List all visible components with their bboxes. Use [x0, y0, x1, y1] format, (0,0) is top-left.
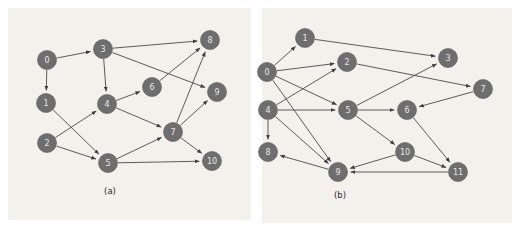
graph-edge-b-10-to-9: [350, 155, 395, 169]
graph-edge-a-0-to-3: [57, 51, 91, 58]
node-circle-b-9[interactable]: [329, 163, 348, 182]
graph-node-a-3[interactable]: 3: [94, 40, 113, 59]
node-circle-a-10[interactable]: [203, 152, 222, 171]
graph-edge-b-4-to-2: [277, 69, 337, 105]
graph-node-a-4[interactable]: 4: [98, 95, 117, 114]
graph-edge-b-6-to-11: [413, 118, 450, 162]
graph-edge-b-1-to-3: [315, 39, 436, 56]
node-circle-b-8[interactable]: [259, 143, 278, 162]
node-circle-b-5[interactable]: [339, 101, 358, 120]
graph-edge-a-7-to-10: [181, 138, 202, 153]
graph-node-a-2[interactable]: 2: [38, 134, 57, 153]
graph-edge-a-4-to-7: [116, 108, 161, 127]
node-circle-b-2[interactable]: [338, 53, 357, 72]
figure-canvas: 01234567891001234567891011 (a) (b): [0, 0, 524, 237]
node-circle-b-6[interactable]: [398, 101, 417, 120]
node-circle-b-11[interactable]: [449, 163, 468, 182]
graph-node-b-4[interactable]: 4: [259, 101, 278, 120]
graph-node-b-5[interactable]: 5: [339, 101, 358, 120]
graph-node-b-1[interactable]: 1: [296, 29, 315, 48]
panel-a-caption: (a): [98, 186, 122, 196]
node-circle-b-1[interactable]: [296, 29, 315, 48]
graph-edge-b-0-to-2: [277, 64, 334, 71]
graph-node-b-0[interactable]: 0: [258, 63, 277, 82]
graph-node-b-2[interactable]: 2: [338, 53, 357, 72]
node-circle-a-5[interactable]: [99, 154, 118, 173]
node-circle-a-8[interactable]: [201, 31, 220, 50]
graph-edge-b-0-to-1: [274, 46, 295, 65]
graph-edge-b-7-to-6: [419, 92, 473, 107]
node-circle-b-10[interactable]: [396, 143, 415, 162]
graph-node-a-1[interactable]: 1: [37, 94, 56, 113]
node-circle-b-3[interactable]: [439, 49, 458, 68]
graph-node-b-3[interactable]: 3: [439, 49, 458, 68]
node-circle-a-7[interactable]: [164, 123, 183, 142]
graph-node-b-8[interactable]: 8: [259, 143, 278, 162]
graph-node-a-8[interactable]: 8: [201, 31, 220, 50]
graph-edge-a-4-to-6: [116, 91, 140, 100]
node-circle-b-7[interactable]: [474, 80, 493, 99]
graph-edge-b-0-to-5: [276, 76, 336, 104]
panel-b-caption: (b): [328, 190, 352, 200]
graph-edge-b-5-to-3: [357, 64, 437, 106]
graph-edge-a-3-to-4: [104, 59, 106, 91]
graph-node-a-6[interactable]: 6: [143, 78, 162, 97]
graph-edge-a-7-to-8: [177, 52, 206, 123]
node-circle-a-6[interactable]: [143, 78, 162, 97]
graph-edge-a-2-to-5: [57, 146, 96, 159]
graph-node-a-9[interactable]: 9: [208, 83, 227, 102]
graph-node-a-5[interactable]: 5: [99, 154, 118, 173]
graph-node-a-10[interactable]: 10: [203, 152, 222, 171]
graph-edge-b-10-to-11: [414, 156, 446, 168]
graph-node-b-9[interactable]: 9: [329, 163, 348, 182]
graph-node-a-7[interactable]: 7: [164, 123, 183, 142]
graph-edge-b-2-to-7: [357, 64, 471, 87]
graph-node-b-10[interactable]: 10: [396, 143, 415, 162]
graph-edge-a-5-to-10: [118, 161, 199, 163]
graph-node-a-0[interactable]: 0: [38, 51, 57, 70]
node-circle-b-0[interactable]: [258, 63, 277, 82]
node-circle-a-0[interactable]: [38, 51, 57, 70]
node-circle-a-4[interactable]: [98, 95, 117, 114]
node-circle-a-1[interactable]: [37, 94, 56, 113]
graph-node-b-11[interactable]: 11: [449, 163, 468, 182]
graph-edge-b-0-to-9: [273, 80, 331, 161]
node-circle-a-2[interactable]: [38, 134, 57, 153]
directed-graph-diagram: 01234567891001234567891011: [0, 0, 524, 237]
node-circle-a-3[interactable]: [94, 40, 113, 59]
graph-edge-a-5-to-7: [117, 137, 162, 158]
node-circle-b-4[interactable]: [259, 101, 278, 120]
graph-edge-b-5-to-10: [356, 116, 395, 145]
graph-edge-a-6-to-8: [160, 48, 200, 81]
graph-edge-a-3-to-8: [113, 41, 197, 48]
graph-node-b-6[interactable]: 6: [398, 101, 417, 120]
graph-edge-a-2-to-4: [55, 111, 96, 138]
graph-node-b-7[interactable]: 7: [474, 80, 493, 99]
node-circle-a-9[interactable]: [208, 83, 227, 102]
